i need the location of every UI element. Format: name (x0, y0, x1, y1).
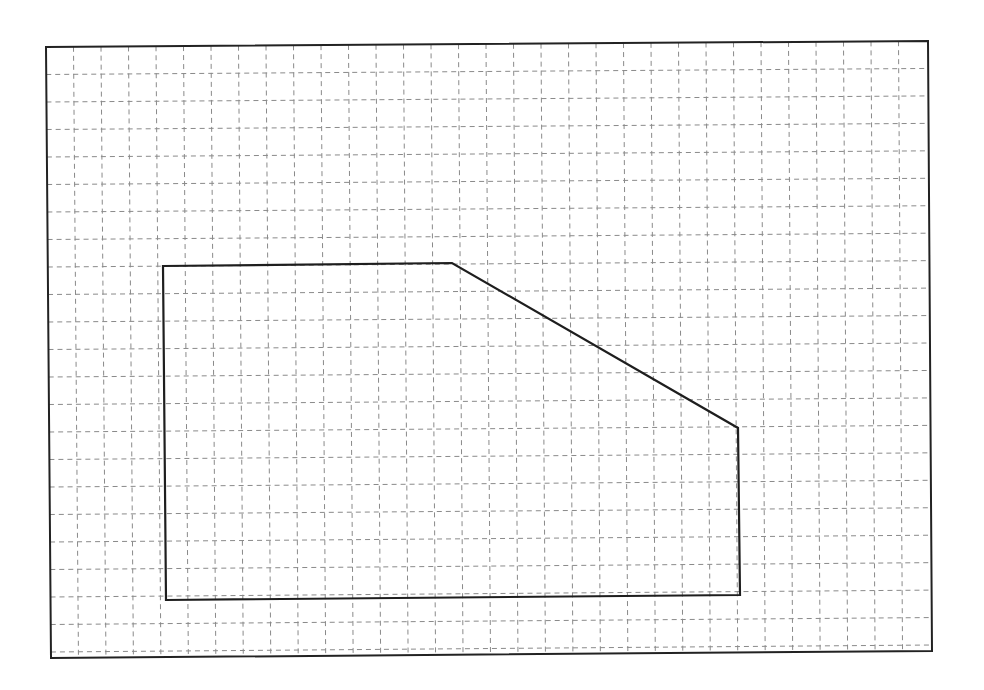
grid-line-vertical (459, 44, 464, 655)
grid-line-horizontal (48, 288, 930, 294)
grid-line-horizontal (48, 316, 930, 322)
grid-line-vertical (679, 43, 683, 653)
grid-line-vertical (486, 44, 491, 655)
grid-line-horizontal (47, 151, 929, 157)
grid-line-vertical (349, 45, 354, 656)
grid-line-horizontal (50, 480, 931, 487)
grid-line-vertical (184, 46, 189, 657)
grid-line-horizontal (48, 233, 930, 239)
grid-line-horizontal (51, 590, 932, 597)
grid-line-horizontal (51, 645, 932, 652)
grid-line-vertical (624, 43, 628, 653)
grid-line-horizontal (49, 425, 930, 432)
grid-line-horizontal (46, 96, 928, 102)
grid-line-horizontal (48, 343, 930, 349)
grid-line-vertical (376, 45, 381, 656)
grid-line-vertical (789, 42, 793, 652)
grid-line-vertical (321, 45, 326, 656)
grid-line-vertical (899, 41, 903, 651)
grid-line-horizontal (49, 370, 930, 377)
grid-line-vertical (541, 44, 545, 654)
grid-line-horizontal (47, 123, 929, 129)
grid-line-vertical (651, 43, 655, 653)
grid-diagram (0, 0, 984, 690)
grid-line-vertical (761, 42, 765, 652)
grid-line-vertical (156, 46, 161, 657)
grid-line-vertical (514, 44, 518, 654)
grid-line-horizontal (50, 508, 931, 515)
grid-line-horizontal (50, 563, 931, 570)
grid-line-horizontal (50, 535, 931, 542)
grid-line-horizontal (47, 206, 929, 212)
grid-line-vertical (871, 41, 875, 651)
grid-line-vertical (239, 46, 244, 657)
grid-line-vertical (569, 43, 573, 653)
grid-line-vertical (74, 47, 79, 658)
grid-line-horizontal (46, 68, 928, 74)
diagram-frame (46, 41, 932, 658)
grid-line-vertical (129, 46, 134, 657)
grid-line-vertical (101, 47, 106, 658)
dashed-grid (46, 41, 932, 658)
grid-line-horizontal (49, 398, 930, 405)
grid-line-horizontal (47, 178, 929, 184)
grid-line-vertical (706, 43, 710, 653)
grid-line-vertical (404, 45, 409, 656)
grid-line-vertical (431, 44, 436, 655)
grid-line-horizontal (49, 453, 930, 460)
grid-line-vertical (211, 46, 216, 657)
grid-line-vertical (844, 42, 848, 652)
grid-line-vertical (816, 42, 820, 652)
grid-line-vertical (266, 46, 271, 657)
grid-line-vertical (734, 42, 738, 652)
grid-line-horizontal (51, 618, 932, 625)
grid-line-vertical (294, 45, 299, 656)
